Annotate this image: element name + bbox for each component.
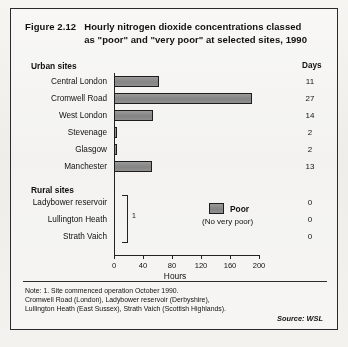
days-value-west-london: 14 <box>302 111 318 120</box>
group-header-rural: Rural sites <box>31 185 74 195</box>
x-tick-120 <box>201 255 202 259</box>
legend-label-poor: Poor <box>230 204 249 214</box>
source-label: Source: WSL <box>277 314 323 323</box>
days-value-glasgow: 2 <box>302 145 318 154</box>
x-axis-line <box>114 255 260 256</box>
x-ticklabel-200: 200 <box>253 261 266 270</box>
legend-swatch-poor <box>209 203 224 214</box>
x-ticklabel-0: 0 <box>112 261 116 270</box>
x-ticklabel-40: 40 <box>139 261 147 270</box>
category-label-cromwell-road: Cromwell Road <box>51 94 107 103</box>
bar-glasgow <box>114 144 117 155</box>
x-ticklabel-80: 80 <box>168 261 176 270</box>
days-value-stevenage: 2 <box>302 128 318 137</box>
days-value-strath-vaich: 0 <box>302 232 318 241</box>
figure-number: Figure 2.12 <box>25 21 76 32</box>
page-title: Hourly nitrogen dioxide concentrations c… <box>84 21 307 46</box>
x-tick-40 <box>143 255 144 259</box>
bar-manchester <box>114 161 152 172</box>
category-label-lullington-heath: Lullington Heath <box>48 215 107 224</box>
note-line-1: Note: 1. Site commenced operation Octobe… <box>25 286 325 295</box>
category-label-manchester: Manchester <box>64 162 107 171</box>
x-axis-title: Hours <box>11 271 339 281</box>
days-value-manchester: 13 <box>302 162 318 171</box>
x-ticklabel-160: 160 <box>224 261 237 270</box>
note-block: Note: 1. Site commenced operation Octobe… <box>25 286 325 314</box>
column-header-days: Days <box>302 61 322 70</box>
note-divider <box>23 281 327 282</box>
days-value-lullington-heath: 0 <box>302 215 318 224</box>
days-value-cromwell-road: 27 <box>302 94 318 103</box>
days-value-ladybower-reservoir: 0 <box>302 198 318 207</box>
footnote-marker: 1 <box>132 212 136 219</box>
figure-title-block: Figure 2.12 Hourly nitrogen dioxide conc… <box>25 21 327 46</box>
x-tick-0 <box>114 255 115 259</box>
category-label-glasgow: Glasgow <box>75 145 107 154</box>
note-line-2: Cromwell Road (London), Ladybower reserv… <box>25 295 325 304</box>
x-tick-160 <box>230 255 231 259</box>
rural-zero-bracket <box>122 195 128 243</box>
figure-title-line-1: Hourly nitrogen dioxide concentrations c… <box>84 21 307 34</box>
x-ticklabel-120: 120 <box>195 261 208 270</box>
days-value-central-london: 11 <box>302 77 318 86</box>
category-label-central-london: Central London <box>51 77 107 86</box>
figure-title-line-2: as "poor" and "very poor" at selected si… <box>84 34 307 47</box>
legend-note-no-very-poor: (No very poor) <box>202 217 253 226</box>
bar-cromwell-road <box>114 93 252 104</box>
bar-west-london <box>114 110 153 121</box>
bar-central-london <box>114 76 159 87</box>
category-label-ladybower-reservoir: Ladybower reservoir <box>33 198 107 207</box>
screenshot-page: Figure 2.12 Hourly nitrogen dioxide conc… <box>0 0 348 347</box>
note-line-3: Lullington Heath (East Sussex), Strath V… <box>25 304 325 313</box>
x-tick-80 <box>172 255 173 259</box>
x-tick-200 <box>259 255 260 259</box>
legend: Poor <box>209 203 249 214</box>
figure-frame: Figure 2.12 Hourly nitrogen dioxide conc… <box>10 8 338 330</box>
group-header-urban: Urban sites <box>31 61 77 71</box>
category-label-west-london: West London <box>59 111 107 120</box>
bar-stevenage <box>114 127 117 138</box>
figure-inner: Figure 2.12 Hourly nitrogen dioxide conc… <box>11 9 337 329</box>
category-label-stevenage: Stevenage <box>68 128 107 137</box>
category-label-strath-vaich: Strath Vaich <box>63 232 107 241</box>
plot-area: 0 40 80 120 160 200 <box>114 73 262 253</box>
